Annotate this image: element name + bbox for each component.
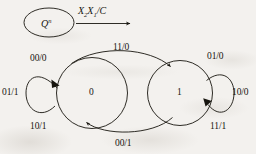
transition-label-loop-1-bottom: 11/1	[210, 122, 226, 132]
transition-arc-0-to-1	[72, 51, 171, 67]
state-label-1: 1	[177, 88, 182, 98]
self-loop-state-1	[207, 75, 235, 112]
legend-state-symbol-exponent: n	[48, 17, 51, 24]
legend-arrow-label: X2X1/C	[78, 6, 106, 19]
state-label-0: 0	[89, 88, 94, 98]
transition-label-loop-0-top: 00/0	[30, 54, 47, 64]
transition-arc-1-to-0	[87, 118, 173, 133]
transition-label-loop-1-right: 10/0	[232, 88, 249, 98]
transition-label-arc-1-to-0: 00/1	[115, 139, 132, 149]
legend-label-output: /C	[97, 5, 106, 16]
transition-label-loop-1-top: 01/0	[207, 52, 224, 62]
legend-state-symbol: Qn	[41, 18, 51, 29]
transition-label-loop-0-bottom: 10/1	[30, 122, 47, 132]
transition-label-arc-0-to-1: 11/0	[113, 43, 129, 53]
state-diagram-figure: Qn X2X1/C 0 1 00/0 01/1 10/1 11/0 00/1 0…	[0, 0, 256, 154]
transition-label-loop-0-left: 01/1	[2, 88, 19, 98]
